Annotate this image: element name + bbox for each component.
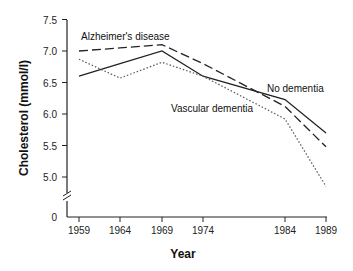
x-tick-label: 1969 — [151, 225, 174, 236]
y-tick-label: 7.5 — [43, 15, 57, 26]
y-tick-label: 6.5 — [43, 78, 57, 89]
y-tick-label: 6.0 — [43, 109, 57, 120]
x-axis-title: Year — [170, 247, 196, 261]
series-line-alzheimer-s-disease — [79, 45, 326, 147]
x-tick-label: 1974 — [192, 225, 215, 236]
x-tick-label: 1959 — [68, 225, 91, 236]
x-tick-label: 1984 — [274, 225, 297, 236]
x-tick-label: 1964 — [109, 225, 132, 236]
x-ticks: 195919641969197419841989 — [68, 217, 338, 236]
y-axis — [63, 20, 71, 217]
y-axis-title: Cholesterol (mmol/l) — [17, 60, 31, 176]
series-label-no-dementia: No dementia — [267, 83, 324, 94]
series-line-vascular-dementia — [79, 59, 326, 186]
y-tick-label: 7.0 — [43, 46, 57, 57]
y-tick-label: 5.0 — [43, 172, 57, 183]
series-lines — [79, 45, 326, 187]
series-label-vascular: Vascular dementia — [171, 103, 254, 114]
y-ticks: 7.57.06.56.05.55.00 — [43, 15, 67, 224]
y-tick-label: 5.5 — [43, 141, 57, 152]
y-tick-label: 0 — [51, 212, 57, 223]
x-tick-label: 1989 — [315, 225, 338, 236]
series-label-alzheimers: Alzheimer's disease — [81, 31, 170, 42]
cholesterol-line-chart: 7.57.06.56.05.55.00 19591964196919741984… — [0, 0, 353, 271]
